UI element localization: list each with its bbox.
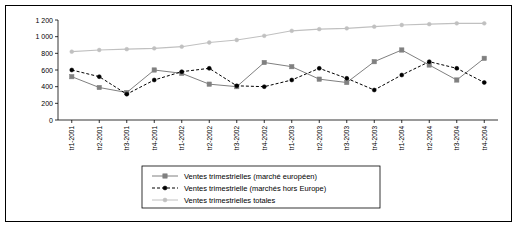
x-tick-label: tr2-2002 bbox=[206, 126, 213, 151]
y-tick-label: 1 000 bbox=[35, 33, 53, 40]
x-tick-label: tr1-2002 bbox=[178, 126, 185, 151]
series-marker bbox=[70, 74, 74, 78]
series-marker bbox=[317, 66, 321, 70]
series-marker bbox=[290, 64, 294, 68]
series-marker bbox=[180, 70, 184, 74]
series-marker bbox=[207, 41, 211, 45]
series-marker bbox=[372, 88, 376, 92]
x-tick-label: tr2-2003 bbox=[316, 126, 323, 151]
series-marker bbox=[125, 92, 129, 96]
x-tick-label: tr4-2004 bbox=[481, 126, 488, 151]
series-marker bbox=[317, 27, 321, 31]
series-marker bbox=[372, 25, 376, 29]
legend-label: Ventes trimestrielle (marchés hors Europ… bbox=[184, 184, 327, 193]
series-marker bbox=[482, 56, 486, 60]
series-marker bbox=[455, 78, 459, 82]
series-line bbox=[72, 62, 485, 95]
legend-marker bbox=[163, 186, 167, 190]
series-marker bbox=[372, 59, 376, 63]
series-line bbox=[72, 23, 485, 51]
series-marker bbox=[290, 29, 294, 33]
series-marker bbox=[427, 60, 431, 64]
series-marker bbox=[345, 26, 349, 30]
series-marker bbox=[207, 82, 211, 86]
series-marker bbox=[70, 50, 74, 54]
series-marker bbox=[235, 38, 239, 42]
series-line bbox=[72, 50, 485, 93]
series-marker bbox=[482, 21, 486, 25]
series-marker bbox=[400, 23, 404, 27]
series-marker bbox=[235, 84, 239, 88]
x-tick-label: tr1-2004 bbox=[398, 126, 405, 151]
series-marker bbox=[400, 73, 404, 77]
series-marker bbox=[455, 66, 459, 70]
y-tick-label: 1 200 bbox=[35, 17, 53, 24]
y-tick-label: 200 bbox=[41, 100, 53, 107]
series-marker bbox=[70, 68, 74, 72]
x-tick-label: tr4-2002 bbox=[261, 126, 268, 151]
series-marker bbox=[180, 45, 184, 49]
x-tick-label: tr3-2004 bbox=[453, 126, 460, 151]
x-tick-label: tr3-2001 bbox=[123, 126, 130, 151]
series-marker bbox=[152, 46, 156, 50]
legend-marker bbox=[163, 198, 167, 202]
x-tick-label: tr1-2001 bbox=[68, 126, 75, 151]
y-tick-label: 400 bbox=[41, 83, 53, 90]
series-marker bbox=[97, 75, 101, 79]
series-marker bbox=[125, 47, 129, 51]
legend-label: Ventes trimestrielles totales bbox=[184, 196, 276, 205]
y-tick-label: 800 bbox=[41, 50, 53, 57]
chart-svg: 02004006008001 0001 200tr1-2001tr2-2001t… bbox=[6, 6, 511, 221]
series-marker bbox=[152, 68, 156, 72]
x-tick-label: tr1-2003 bbox=[288, 126, 295, 151]
x-tick-label: tr3-2003 bbox=[343, 126, 350, 151]
series-marker bbox=[455, 21, 459, 25]
series-marker bbox=[317, 77, 321, 81]
series-marker bbox=[345, 76, 349, 80]
series-marker bbox=[290, 78, 294, 82]
series-marker bbox=[207, 66, 211, 70]
x-tick-label: tr4-2003 bbox=[371, 126, 378, 151]
series-marker bbox=[482, 81, 486, 85]
series-marker bbox=[97, 85, 101, 89]
series-marker bbox=[97, 48, 101, 52]
series-marker bbox=[400, 48, 404, 52]
series-marker bbox=[262, 60, 266, 64]
x-tick-label: tr2-2004 bbox=[426, 126, 433, 151]
series-marker bbox=[262, 85, 266, 89]
chart-frame: 02004006008001 0001 200tr1-2001tr2-2001t… bbox=[5, 5, 512, 222]
series-marker bbox=[152, 78, 156, 82]
y-tick-label: 0 bbox=[49, 117, 53, 124]
series-marker bbox=[427, 22, 431, 26]
x-tick-label: tr3-2002 bbox=[233, 126, 240, 151]
chart-area: 02004006008001 0001 200tr1-2001tr2-2001t… bbox=[6, 6, 511, 221]
x-tick-label: tr4-2001 bbox=[151, 126, 158, 151]
legend-label: Ventes trimestrielles (marché européen) bbox=[184, 172, 317, 181]
legend-marker bbox=[163, 174, 167, 178]
y-tick-label: 600 bbox=[41, 67, 53, 74]
series-marker bbox=[345, 80, 349, 84]
series-marker bbox=[262, 34, 266, 38]
x-tick-label: tr2-2001 bbox=[96, 126, 103, 151]
